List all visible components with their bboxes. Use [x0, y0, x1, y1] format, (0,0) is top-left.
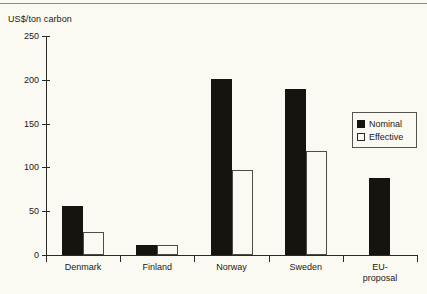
y-axis-tick-label: 250 [3, 31, 39, 41]
x-axis-tick [46, 255, 47, 262]
x-axis-category-label: Finland [117, 262, 197, 273]
chart-legend: Nominal Effective [352, 112, 417, 148]
y-axis-tick-label: 200 [3, 75, 39, 85]
y-axis-tick-label: 150 [3, 119, 39, 129]
x-axis-tick [194, 255, 195, 262]
legend-label-nominal: Nominal [369, 119, 402, 129]
y-axis-tick-label: 0 [3, 250, 39, 260]
bar-eu-proposal-nominal [369, 178, 390, 255]
y-axis-tick-label: 100 [3, 162, 39, 172]
x-axis-line [46, 255, 417, 256]
legend-item-nominal: Nominal [357, 117, 412, 130]
bar-norway-nominal [211, 79, 232, 255]
y-axis-tick-label: 50 [3, 206, 39, 216]
legend-item-effective: Effective [357, 130, 412, 143]
bar-norway-effective [232, 170, 253, 255]
bar-finland-effective [157, 245, 178, 256]
bar-sweden-nominal [285, 89, 306, 255]
x-axis-category-label: Norway [192, 262, 272, 273]
legend-swatch-nominal-icon [357, 120, 365, 128]
bar-denmark-nominal [62, 206, 83, 255]
bar-sweden-effective [306, 151, 327, 255]
bar-finland-nominal [136, 245, 157, 256]
x-axis-tick [120, 255, 121, 262]
bar-chart-figure: US$/ton carbon 050100150200250 DenmarkFi… [0, 0, 427, 294]
x-axis-tick [417, 255, 418, 262]
legend-label-effective: Effective [369, 132, 403, 142]
legend-swatch-effective-icon [357, 133, 365, 141]
bar-denmark-effective [83, 232, 104, 255]
x-axis-category-label: EU-proposal [340, 262, 420, 284]
page-rule [0, 3, 427, 4]
x-axis-tick [343, 255, 344, 262]
x-axis-category-label: Sweden [266, 262, 346, 273]
x-axis-category-label: Denmark [43, 262, 123, 273]
y-axis-title: US$/ton carbon [8, 14, 72, 24]
x-axis-tick [269, 255, 270, 262]
